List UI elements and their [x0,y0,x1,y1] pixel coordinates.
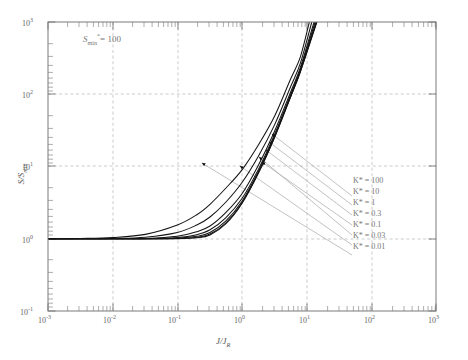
legend-label-2: K* = 1 [353,198,375,207]
xtick-label-6: 103 [428,314,439,325]
legend-label-5: K* = 0.03 [353,231,385,240]
ytick-label-2: 102 [22,89,33,100]
legend-label-6: K* = 0.01 [353,242,385,251]
xtick-label-3: 100 [234,314,245,325]
figure-container: 10-3 10-2 10-1 100 101 102 103 103 102 1… [0,0,468,360]
legend-label-4: K* = 0.1 [353,220,381,229]
ytick-label-m1: 10-1 [20,306,33,317]
x-axis-title: J/JR [216,336,230,348]
legend-label-3: K* = 0.3 [353,209,381,218]
ytick-label-0: 100 [22,234,33,245]
y-axis-title: S/Smin [16,144,28,204]
legend-label-1: K* = 10 [353,187,379,196]
plot-area-background [48,22,436,311]
xtick-label-2: 10-1 [168,314,181,325]
log-log-chart [0,0,468,360]
xtick-label-1: 10-2 [103,314,116,325]
ytick-label-3: 103 [22,17,33,28]
xtick-label-4: 101 [299,314,310,325]
xtick-label-0: 10-3 [38,314,51,325]
xtick-label-5: 102 [364,314,375,325]
legend-label-0: K* = 100 [353,176,383,185]
smin-annotation: Smin*= 100 [83,33,121,46]
